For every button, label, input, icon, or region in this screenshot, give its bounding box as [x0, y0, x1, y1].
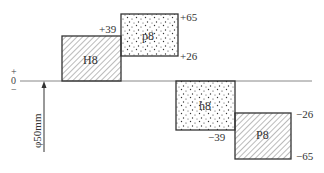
- zone-P8-label: P8: [256, 128, 269, 142]
- zone-h8-label: h8: [199, 99, 211, 113]
- h8-lower-label: −39: [208, 131, 226, 143]
- P8-upper-label: −26: [296, 108, 314, 120]
- P8-lower-label: −65: [296, 150, 314, 162]
- zone-p8-label: p8: [142, 29, 154, 43]
- tolerance-diagram: + 0 − φ50mm H8 +39 p8 +65 +26 h8 −39 P8 …: [0, 0, 324, 173]
- p8-lower-label: +26: [180, 50, 198, 62]
- arrow-up-icon: [42, 81, 47, 88]
- p8-upper-label: +65: [180, 11, 198, 23]
- zone-H8-label: H8: [83, 53, 98, 67]
- basic-size-label: φ50mm: [31, 113, 43, 148]
- H8-upper-label: +39: [99, 23, 117, 35]
- minus-sign: −: [11, 84, 17, 95]
